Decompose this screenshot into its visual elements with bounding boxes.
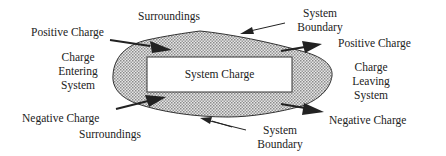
leaving-line-3: System	[341, 88, 401, 102]
entering-line-2: Entering	[48, 64, 108, 78]
right-positive-charge-label: Positive Charge	[338, 36, 411, 50]
entering-line-1: Charge	[48, 50, 108, 64]
left-positive-charge-label: Positive Charge	[31, 25, 104, 39]
right-negative-charge-label: Negative Charge	[329, 113, 406, 127]
boundary-top-line-2: Boundary	[290, 20, 350, 34]
leaving-line-1: Charge	[341, 60, 401, 74]
leaving-line-2: Leaving	[341, 74, 401, 88]
arrow-surroundings-bottom-icon	[212, 121, 232, 127]
system-boundary-bottom-label: System Boundary	[250, 123, 310, 151]
surroundings-bottom-label: Surroundings	[79, 127, 141, 141]
arrow-boundary-top-icon	[240, 23, 285, 34]
left-negative-charge-label: Negative Charge	[22, 111, 99, 125]
charge-leaving-system-label: Charge Leaving System	[341, 60, 401, 102]
system-charge-label: System Charge	[147, 67, 292, 81]
arrow-boundary-bottom-icon	[200, 117, 246, 130]
surroundings-top-label: Surroundings	[138, 9, 200, 23]
boundary-bottom-line-2: Boundary	[250, 137, 310, 151]
boundary-top-line-1: System	[290, 6, 350, 20]
charge-entering-system-label: Charge Entering System	[48, 50, 108, 92]
system-boundary-top-label: System Boundary	[290, 6, 350, 34]
entering-line-3: System	[48, 78, 108, 92]
boundary-bottom-line-1: System	[250, 123, 310, 137]
